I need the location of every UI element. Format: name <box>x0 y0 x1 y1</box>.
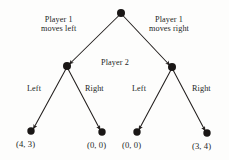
payoff-leaf3: (0, 0) <box>122 140 141 150</box>
node-n2 <box>168 63 176 71</box>
edge-n2-to-leaf4 <box>172 68 205 131</box>
edge-n1-to-leaf2 <box>67 67 100 130</box>
label-player1-moves-left: Player 1 moves left <box>41 15 76 34</box>
payoff-leaf4: (3, 4) <box>192 141 211 151</box>
game-tree-diagram: Player 1 moves left Player 1 moves right… <box>0 0 229 160</box>
payoff-leaf2: (0, 0) <box>87 140 106 150</box>
label-right-1: Right <box>85 84 104 93</box>
label-player1-moves-right-line1: Player 1 <box>149 15 189 24</box>
payoff-leaf1: (4, 3) <box>16 139 35 149</box>
label-left-2: Left <box>132 84 146 93</box>
edge-n2-to-leaf3 <box>139 68 172 130</box>
node-leaf4 <box>203 129 210 136</box>
label-player1-moves-left-line2: moves left <box>41 24 76 33</box>
node-n1 <box>63 62 71 70</box>
label-left-1: Left <box>27 84 41 93</box>
node-root <box>117 9 125 17</box>
tree-graphics <box>0 0 229 160</box>
label-right-2: Right <box>192 84 211 93</box>
edge-n1-to-leaf1 <box>34 67 68 129</box>
label-player1-moves-right-line2: moves right <box>149 24 189 33</box>
edge-root-to-n1 <box>70 14 122 65</box>
label-player2: Player 2 <box>101 58 129 67</box>
node-leaf2 <box>98 128 105 135</box>
label-player1-moves-left-line1: Player 1 <box>41 15 76 24</box>
node-leaf3 <box>133 128 140 135</box>
label-player1-moves-right: Player 1 moves right <box>149 15 189 34</box>
node-leaf1 <box>27 127 34 134</box>
